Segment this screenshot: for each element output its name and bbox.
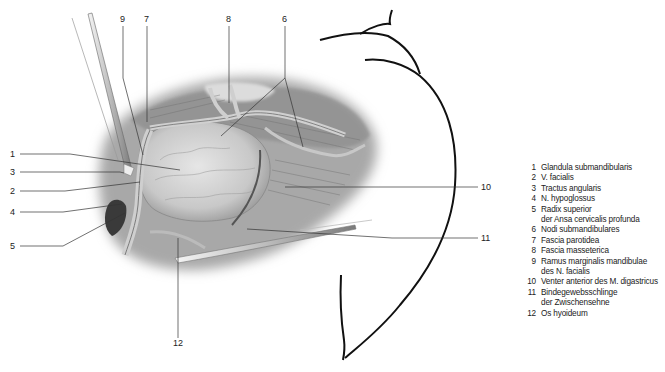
legend-item-continuation: der Zwischensehne	[522, 298, 665, 308]
legend: 1Glandula submandibularis 2V. facialis 3…	[522, 163, 665, 319]
legend-item-continuation: der Ansa cervicalis profunda	[522, 215, 665, 225]
callout-8: 8	[226, 14, 231, 24]
legend-item: 2V. facialis	[522, 173, 665, 183]
legend-item: 12Os hyoideum	[522, 309, 665, 319]
legend-item: 5Radix superior	[522, 205, 665, 215]
legend-item-continuation: des N. facialis	[522, 267, 665, 277]
callout-3: 3	[10, 167, 15, 177]
callout-1: 1	[10, 149, 15, 159]
callout-5: 5	[10, 241, 15, 251]
legend-item: 11Bindegewebsschlinge	[522, 288, 665, 298]
callout-9: 9	[120, 14, 125, 24]
callout-11: 11	[481, 233, 490, 243]
callout-10: 10	[481, 182, 491, 192]
dissection-field	[99, 77, 377, 270]
callout-2: 2	[10, 186, 15, 196]
legend-item: 1Glandula submandibularis	[522, 163, 665, 173]
callout-6: 6	[282, 14, 287, 24]
legend-item: 4N. hypoglossus	[522, 194, 665, 204]
legend-item: 3Tractus angularis	[522, 184, 665, 194]
callout-7: 7	[144, 14, 149, 24]
legend-item: 9Ramus marginalis mandibulae	[522, 257, 665, 267]
callout-12: 12	[173, 338, 183, 348]
legend-item: 7Fascia parotidea	[522, 236, 665, 246]
legend-item: 6Nodi submandibulares	[522, 225, 665, 235]
legend-item: 10Venter anterior des M. digastricus	[522, 277, 665, 287]
callout-4: 4	[10, 207, 15, 217]
legend-item: 8Fascia masseterica	[522, 246, 665, 256]
